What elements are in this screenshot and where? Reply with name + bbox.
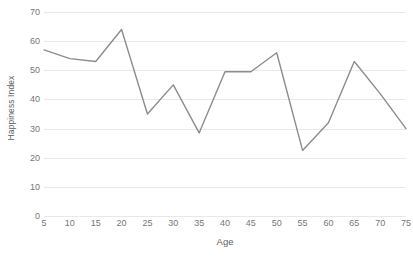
x-axis-tick-labels: 51015202530354045505560657075: [44, 218, 406, 234]
y-axis-tick-label: 60: [30, 36, 40, 46]
x-axis-title: Age: [44, 236, 406, 247]
line-chart: Happiness Index 010203040506070 51015202…: [0, 0, 413, 261]
y-axis-tick-label: 20: [30, 153, 40, 163]
x-axis-tick-label: 55: [298, 218, 308, 228]
x-axis-tick-label: 65: [349, 218, 359, 228]
y-axis-tick-label: 50: [30, 65, 40, 75]
y-axis-tick-labels: 010203040506070: [20, 0, 44, 230]
x-axis-tick-label: 30: [168, 218, 178, 228]
x-axis-tick-label: 70: [375, 218, 385, 228]
y-axis-tick-label: 30: [30, 124, 40, 134]
y-axis-tick-label: 10: [30, 182, 40, 192]
series-happiness-index: [44, 12, 406, 216]
gridline: [44, 216, 406, 217]
x-axis-tick-label: 15: [91, 218, 101, 228]
x-axis-tick-label: 10: [65, 218, 75, 228]
x-axis-tick-label: 5: [41, 218, 46, 228]
y-axis-title-label: Happiness Index: [6, 76, 16, 141]
x-axis-tick-label: 60: [323, 218, 333, 228]
y-axis-tick-label: 40: [30, 94, 40, 104]
y-axis-tick-label: 0: [35, 211, 40, 221]
x-axis-tick-label: 25: [142, 218, 152, 228]
x-axis-tick-label: 45: [246, 218, 256, 228]
y-axis-tick-label: 70: [30, 7, 40, 17]
x-axis-tick-label: 75: [401, 218, 411, 228]
y-axis-title: Happiness Index: [0, 0, 22, 216]
x-axis-tick-label: 35: [194, 218, 204, 228]
x-axis-tick-label: 50: [272, 218, 282, 228]
x-axis-tick-label: 20: [117, 218, 127, 228]
x-axis-tick-label: 40: [220, 218, 230, 228]
plot-area: [44, 12, 406, 216]
series-line: [44, 29, 406, 150]
